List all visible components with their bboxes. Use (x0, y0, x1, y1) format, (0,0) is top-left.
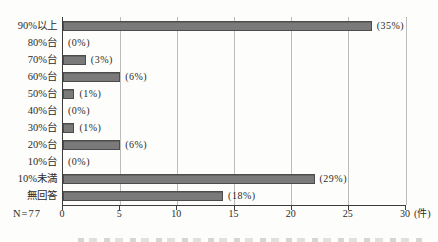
value-label-1: (0%) (68, 38, 90, 48)
tick-label-10: 10 (171, 209, 181, 219)
category-label-1: 80%台 (0, 38, 57, 49)
category-label-2: 70%台 (0, 55, 57, 66)
value-label-9: (29%) (320, 174, 348, 184)
bar-10 (63, 191, 223, 201)
value-label-5: (0%) (68, 106, 90, 116)
value-label-2: (3%) (91, 55, 113, 65)
bar-chart-figure: (35%)(0%)(3%)(6%)(1%)(0%)(1%)(6%)(0%)(29… (0, 0, 438, 242)
category-label-6: 30%台 (0, 123, 57, 134)
bar-0 (63, 21, 372, 31)
tick-label-25: 25 (343, 209, 353, 219)
value-label-4: (1%) (79, 89, 101, 99)
value-label-3: (6%) (125, 72, 147, 82)
plot-area: (35%)(0%)(3%)(6%)(1%)(0%)(1%)(6%)(0%)(29… (62, 17, 406, 206)
category-axis: 90%以上80%台70%台60%台50%台40%台30%台20%台10%台10%… (0, 17, 57, 205)
gridline-x-25 (348, 17, 349, 205)
category-label-4: 50%台 (0, 89, 57, 100)
cropped-caption-fragment (78, 238, 426, 242)
tick-label-0: 0 (60, 209, 65, 219)
axis-unit-label: (件) (414, 209, 431, 219)
tick-mark-5 (119, 206, 120, 210)
tick-label-30: 30 (400, 209, 410, 219)
tick-mark-15 (234, 206, 235, 210)
value-label-6: (1%) (79, 123, 101, 133)
category-label-0: 90%以上 (0, 21, 57, 32)
category-label-7: 20%台 (0, 140, 57, 151)
bar-2 (63, 55, 86, 65)
category-label-9: 10%未満 (0, 174, 57, 185)
category-label-8: 10%台 (0, 157, 57, 168)
value-label-10: (18%) (228, 191, 256, 201)
bar-6 (63, 123, 74, 133)
tick-label-20: 20 (286, 209, 296, 219)
category-label-3: 60%台 (0, 72, 57, 83)
tick-mark-30 (405, 206, 406, 210)
category-label-5: 40%台 (0, 106, 57, 117)
bar-3 (63, 72, 120, 82)
tick-mark-20 (291, 206, 292, 210)
value-label-8: (0%) (68, 157, 90, 167)
tick-label-15: 15 (229, 209, 239, 219)
bar-4 (63, 89, 74, 99)
category-label-10: 無回答 (0, 191, 57, 202)
gridline-x-30 (406, 17, 407, 205)
tick-mark-0 (62, 206, 63, 210)
value-label-0: (35%) (377, 21, 405, 31)
tick-label-5: 5 (117, 209, 122, 219)
tick-mark-25 (348, 206, 349, 210)
sample-size-label: N=77 (13, 209, 41, 220)
bar-9 (63, 174, 315, 184)
value-label-7: (6%) (125, 140, 147, 150)
tick-mark-10 (176, 206, 177, 210)
bar-7 (63, 140, 120, 150)
